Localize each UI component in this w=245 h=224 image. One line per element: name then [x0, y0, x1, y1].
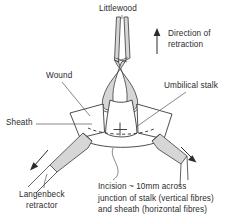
wound-flap-right: [137, 104, 172, 139]
umbilical-stalk: [106, 100, 138, 137]
label-direction-line2: retraction: [168, 39, 211, 50]
littlewood-forceps: [102, 17, 137, 112]
label-umbilical-stalk: Umbilical stalk: [164, 81, 218, 92]
figure-canvas: Littlewood Direction of retraction Wound…: [0, 0, 245, 224]
left-retraction-arrow: [30, 150, 48, 171]
retractor-left-blade: [50, 133, 92, 172]
label-incision-line2: junction of stalk (vertical fibres): [98, 193, 214, 205]
label-langenbeck-line2: retractor: [19, 200, 65, 211]
label-direction-line1: Direction of: [168, 28, 211, 39]
forceps-right-shaft: [124, 17, 130, 60]
label-direction-of-retraction: Direction of retraction: [168, 28, 211, 50]
wound-flap-left: [70, 104, 105, 138]
langenbeck-retractor-left: [28, 133, 92, 193]
umbilical-stalk-body: [106, 100, 138, 137]
sheath-lower-edge: [80, 138, 164, 147]
leader-langenbeck: [44, 174, 47, 188]
retractor-right-blade: [152, 134, 187, 164]
label-langenbeck-line1: Langenbeck: [19, 189, 65, 200]
langenbeck-retractor-right: [152, 134, 188, 186]
label-incision-caption: Incision ~ 10mm across junction of stalk…: [98, 181, 214, 216]
direction-of-retraction-arrow: [154, 28, 161, 54]
label-incision-line3: and sheath (horizontal fibres): [98, 204, 214, 216]
forceps-left-shaft: [115, 17, 121, 62]
leader-incision: [112, 148, 118, 180]
label-wound: Wound: [46, 71, 72, 82]
label-incision-line1: Incision ~ 10mm across: [98, 181, 214, 193]
label-sheath: Sheath: [6, 118, 33, 129]
label-littlewood: Littlewood: [99, 4, 137, 15]
label-langenbeck-retractor: Langenbeck retractor: [19, 189, 65, 211]
